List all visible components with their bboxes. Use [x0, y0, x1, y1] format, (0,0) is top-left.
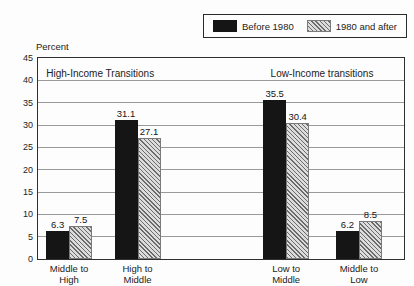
gridline: [38, 169, 404, 170]
bar-1980-and-after: [69, 226, 92, 260]
category-label: Middle to High: [50, 263, 89, 286]
legend-label: 1980 and after: [336, 21, 397, 32]
y-tick-label: 45: [23, 53, 33, 63]
y-tick-label: 35: [23, 98, 33, 108]
bar-1980-and-after: [138, 138, 161, 259]
y-tick-label: 15: [23, 187, 33, 197]
legend: Before 1980 1980 and after: [203, 14, 407, 38]
gridline: [38, 147, 404, 148]
gridline: [38, 80, 404, 81]
bar-before-1980: [115, 120, 138, 259]
bar-before-1980: [46, 231, 69, 259]
y-tick-label: 30: [23, 120, 33, 130]
legend-item-1980-and-after: 1980 and after: [307, 20, 397, 32]
gridline: [38, 192, 404, 193]
plot-area: 051015202530354045High-Income Transition…: [37, 57, 405, 260]
section-label: High-Income Transitions: [46, 68, 154, 79]
legend-item-before-1980: Before 1980: [213, 20, 294, 32]
y-tick-label: 40: [23, 75, 33, 85]
bar-1980-and-after: [359, 221, 382, 259]
bar-1980-and-after: [286, 123, 309, 259]
y-tick-label: 10: [23, 209, 33, 219]
category-label: High to Middle: [122, 263, 152, 286]
bar-value-label: 31.1: [117, 108, 136, 119]
gridline: [38, 214, 404, 215]
y-tick-label: 25: [23, 142, 33, 152]
y-tick-label: 0: [28, 254, 33, 264]
legend-label: Before 1980: [242, 21, 294, 32]
bar-value-label: 7.5: [74, 214, 87, 225]
bar-value-label: 30.4: [288, 111, 307, 122]
bar-value-label: 35.5: [265, 88, 284, 99]
y-tick-label: 20: [23, 165, 33, 175]
y-tick-label: 5: [28, 232, 33, 242]
y-axis-title: Percent: [36, 41, 69, 52]
legend-swatch-solid-icon: [213, 20, 237, 32]
bar-value-label: 6.3: [51, 219, 64, 230]
section-label: Low-Income transitions: [271, 68, 374, 79]
category-label: Low to Middle: [272, 263, 300, 286]
gridline: [38, 102, 404, 103]
legend-swatch-hatch-icon: [307, 20, 331, 32]
bar-before-1980: [263, 100, 286, 259]
bar-value-label: 27.1: [140, 126, 159, 137]
gridline: [38, 125, 404, 126]
bar-value-label: 6.2: [341, 219, 354, 230]
bar-before-1980: [336, 231, 359, 259]
chart-figure: Before 1980 1980 and after Percent 05101…: [0, 0, 414, 286]
bar-value-label: 8.5: [364, 209, 377, 220]
category-label: Middle to Low: [340, 263, 379, 286]
